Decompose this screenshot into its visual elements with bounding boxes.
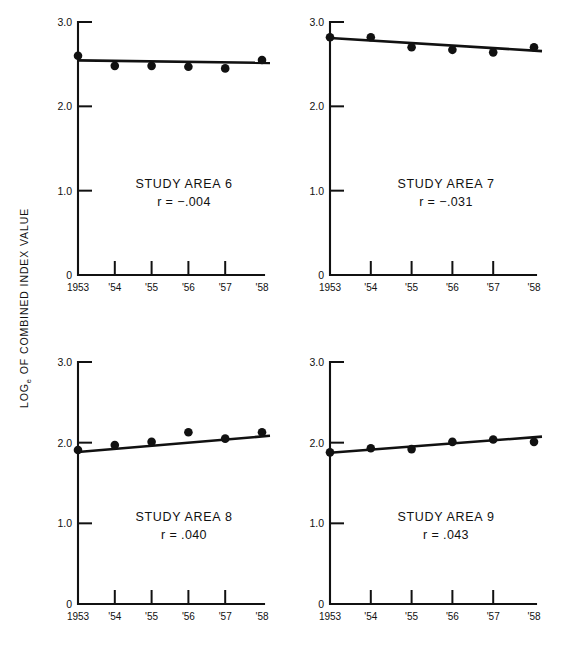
x-tick-label-58: '58 [255, 611, 268, 622]
y-tick-label-1.0: 1.0 [309, 185, 324, 197]
trend-line [78, 60, 270, 63]
x-tick-label-58: '58 [255, 282, 268, 293]
y-tick-label-0: 0 [66, 598, 72, 610]
data-point [147, 62, 156, 71]
x-tick-label-57: '57 [487, 282, 500, 293]
axis-spines [330, 362, 536, 604]
trend-line [78, 436, 270, 452]
data-point [407, 43, 416, 52]
x-tick-label-1953: 1953 [319, 282, 342, 293]
data-point [367, 444, 376, 453]
x-tick-label-55: '55 [405, 282, 418, 293]
data-point [448, 46, 457, 55]
panel-study-area-9: 01.02.03.01953'54'55'56'57'58STUDY AREA … [309, 356, 542, 622]
panel-correlation-annotation: r = −.031 [419, 195, 473, 209]
data-point [326, 33, 335, 42]
x-tick-label-55: '55 [145, 282, 158, 293]
data-point [489, 435, 498, 444]
figure-canvas: LOGe OF COMBINED INDEX VALUE 01.02.03.01… [0, 0, 566, 656]
x-tick-label-56: '56 [182, 611, 195, 622]
x-tick-label-1953: 1953 [67, 282, 90, 293]
x-tick-label-54: '54 [108, 282, 121, 293]
x-tick-label-57: '57 [219, 282, 232, 293]
data-point [258, 56, 267, 65]
panel-study-area-7: 01.02.03.01953'54'55'56'57'58STUDY AREA … [309, 16, 542, 293]
y-tick-label-2.0: 2.0 [57, 100, 72, 112]
data-point [74, 446, 83, 455]
x-tick-label-57: '57 [487, 611, 500, 622]
x-tick-label-58: '58 [527, 282, 540, 293]
svg-text:LOGe OF COMBINED INDEX VALUE: LOGe OF COMBINED INDEX VALUE [18, 208, 33, 408]
data-point [448, 438, 457, 447]
axis-spines [330, 22, 536, 275]
y-tick-label-1.0: 1.0 [309, 517, 324, 529]
x-tick-label-1953: 1953 [67, 611, 90, 622]
panel-correlation-annotation: r = .043 [423, 528, 469, 542]
y-axis-label-subscript: e [24, 378, 33, 383]
panels-root: 01.02.03.01953'54'55'56'57'58STUDY AREA … [57, 16, 542, 622]
panel-title: STUDY AREA 6 [135, 177, 232, 191]
data-point [221, 64, 230, 73]
y-axis-label-main: OF COMBINED INDEX VALUE [18, 208, 30, 374]
data-point [111, 441, 120, 450]
data-point [530, 43, 539, 52]
data-point [489, 48, 498, 57]
y-tick-label-0: 0 [318, 269, 324, 281]
x-tick-label-58: '58 [527, 611, 540, 622]
data-point [367, 33, 376, 42]
x-tick-label-57: '57 [219, 611, 232, 622]
y-axis-label: LOGe OF COMBINED INDEX VALUE [18, 208, 33, 408]
y-tick-label-2.0: 2.0 [309, 100, 324, 112]
y-tick-label-2.0: 2.0 [57, 437, 72, 449]
data-point [147, 438, 156, 447]
data-point [184, 62, 193, 71]
y-tick-label-3.0: 3.0 [57, 16, 72, 28]
data-point [326, 448, 335, 457]
y-tick-label-3.0: 3.0 [309, 16, 324, 28]
x-tick-label-56: '56 [182, 282, 195, 293]
data-point [530, 438, 539, 447]
x-tick-label-54: '54 [108, 611, 121, 622]
panel-title: STUDY AREA 9 [397, 510, 494, 524]
x-tick-label-54: '54 [364, 611, 377, 622]
y-axis-label-prefix: LOG [18, 383, 30, 408]
x-tick-label-54: '54 [364, 282, 377, 293]
x-tick-label-1953: 1953 [319, 611, 342, 622]
data-point [258, 428, 267, 437]
data-point [221, 434, 230, 443]
y-tick-label-1.0: 1.0 [57, 185, 72, 197]
data-point [74, 51, 83, 60]
y-tick-label-2.0: 2.0 [309, 437, 324, 449]
y-tick-label-0: 0 [66, 269, 72, 281]
panel-title: STUDY AREA 8 [135, 510, 232, 524]
x-tick-label-56: '56 [446, 611, 459, 622]
panel-title: STUDY AREA 7 [397, 177, 494, 191]
y-tick-label-1.0: 1.0 [57, 517, 72, 529]
trend-line [330, 38, 542, 51]
x-tick-label-55: '55 [145, 611, 158, 622]
y-tick-label-3.0: 3.0 [309, 356, 324, 368]
y-tick-label-3.0: 3.0 [57, 356, 72, 368]
y-tick-label-0: 0 [318, 598, 324, 610]
x-tick-label-56: '56 [446, 282, 459, 293]
trend-line [330, 437, 542, 453]
panel-correlation-annotation: r = −.004 [157, 195, 211, 209]
axis-spines [78, 362, 264, 604]
panel-study-area-6: 01.02.03.01953'54'55'56'57'58STUDY AREA … [57, 16, 270, 293]
x-tick-label-55: '55 [405, 611, 418, 622]
data-point [184, 428, 193, 437]
panel-correlation-annotation: r = .040 [161, 528, 207, 542]
four-panel-scatter-chart: LOGe OF COMBINED INDEX VALUE 01.02.03.01… [0, 0, 566, 656]
panel-study-area-8: 01.02.03.01953'54'55'56'57'58STUDY AREA … [57, 356, 270, 622]
data-point [407, 445, 416, 454]
data-point [111, 62, 120, 71]
